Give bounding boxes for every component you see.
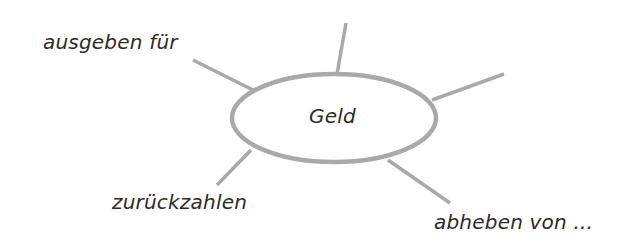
branch-line-bottom-left [217, 150, 251, 185]
branch-line-bottom-right [388, 160, 450, 203]
center-label: Geld [309, 106, 356, 126]
branch-label-top-left: ausgeben für [43, 32, 178, 52]
branch-line-top [337, 23, 346, 74]
branch-line-top-left [193, 60, 255, 91]
branch-line-top-right [432, 74, 504, 100]
branch-label-bottom-right: abheben von ... [434, 212, 593, 232]
branch-label-bottom-left: zurückzahlen [112, 192, 247, 212]
